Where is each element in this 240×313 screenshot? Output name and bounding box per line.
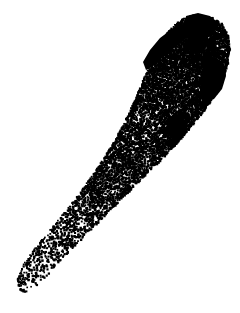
figure-container [0,0,240,313]
stipple-illustration-canvas [0,0,240,313]
